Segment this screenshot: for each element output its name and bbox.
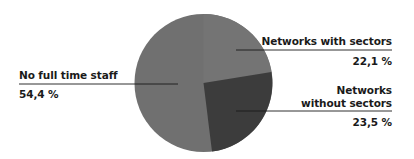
label-networks-with-sectors: Networks with sectors <box>261 35 392 48</box>
value-networks-with-sectors: 22,1 % <box>353 55 392 68</box>
value-networks-without-sectors: 23,5 % <box>353 116 392 129</box>
label-no-full-time-staff: No full time staff <box>19 69 118 82</box>
label-networks-without-sectors-line1: Networks <box>337 84 392 97</box>
label-networks-without-sectors-line2: without sectors <box>301 97 392 110</box>
pie-slice-networks-with-sectors <box>204 14 272 83</box>
pie-slice-networks-without-sectors <box>204 72 273 152</box>
value-no-full-time-staff: 54,4 % <box>19 88 58 101</box>
